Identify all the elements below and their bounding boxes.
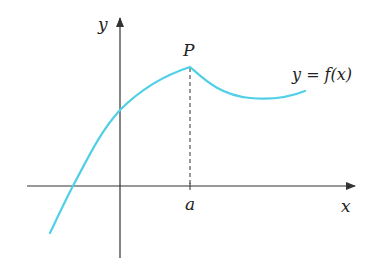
function-curve (50, 67, 305, 233)
point-p-label: P (182, 40, 195, 60)
x-axis-label: x (341, 196, 351, 216)
graph: y x P y = f(x) a (0, 0, 375, 265)
y-axis-label: y (97, 14, 108, 34)
function-label: y = f(x) (291, 65, 352, 84)
x-tick-label-a: a (185, 194, 195, 214)
